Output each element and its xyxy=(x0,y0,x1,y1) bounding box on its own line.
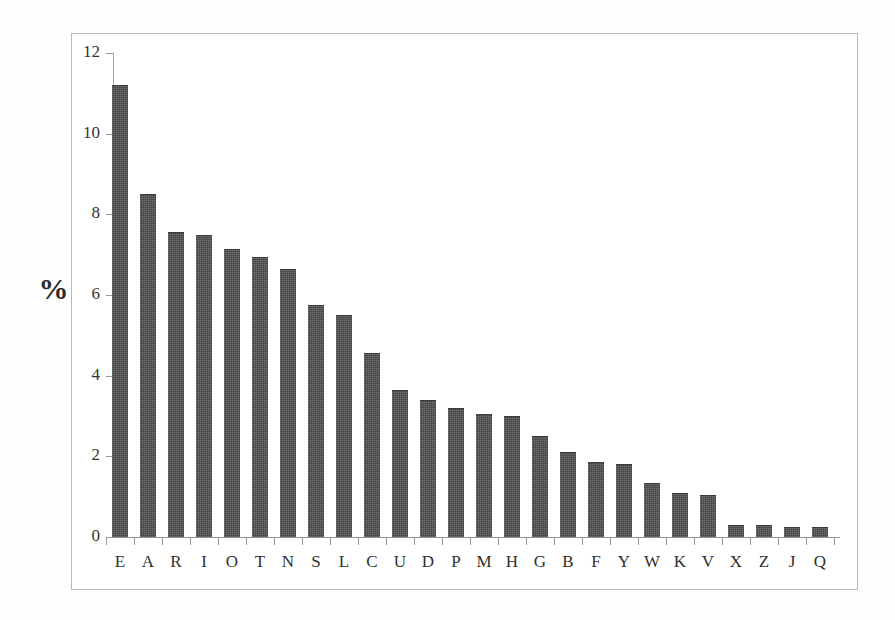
x-axis-tick xyxy=(330,538,331,545)
x-axis-category-label: R xyxy=(162,552,190,572)
x-axis-baseline xyxy=(113,537,840,538)
x-axis-category-label: T xyxy=(246,552,274,572)
bar xyxy=(784,527,800,537)
x-axis-category-label: V xyxy=(694,552,722,572)
x-axis-category-label: B xyxy=(554,552,582,572)
x-axis-category-label: N xyxy=(274,552,302,572)
x-axis-category-label: X xyxy=(722,552,750,572)
bar xyxy=(700,495,716,537)
bar xyxy=(308,305,324,537)
bar xyxy=(196,235,212,538)
x-axis-category-label: W xyxy=(638,552,666,572)
x-axis-tick xyxy=(526,538,527,545)
bar xyxy=(224,249,240,537)
x-axis-category-label: L xyxy=(330,552,358,572)
x-axis-category-label: G xyxy=(526,552,554,572)
x-axis-tick xyxy=(414,538,415,545)
bar xyxy=(140,194,156,537)
x-axis-tick xyxy=(778,538,779,545)
x-axis-category-label: O xyxy=(218,552,246,572)
x-axis-category-label: J xyxy=(778,552,806,572)
x-axis-category-label: U xyxy=(386,552,414,572)
x-axis-category-label: H xyxy=(498,552,526,572)
bar xyxy=(448,408,464,537)
plot-frame xyxy=(71,33,858,590)
x-axis-tick xyxy=(162,538,163,545)
x-axis-category-label: S xyxy=(302,552,330,572)
x-axis-category-label: C xyxy=(358,552,386,572)
x-axis-tick xyxy=(666,538,667,545)
x-axis-tick xyxy=(610,538,611,545)
y-axis-title: % xyxy=(30,274,76,304)
x-axis-tick xyxy=(554,538,555,545)
bar xyxy=(756,525,772,537)
x-axis-category-label: D xyxy=(414,552,442,572)
x-axis-tick xyxy=(498,538,499,545)
bar xyxy=(644,483,660,537)
x-axis-category-label: M xyxy=(470,552,498,572)
bar xyxy=(560,452,576,537)
x-axis-category-label: I xyxy=(190,552,218,572)
x-axis-tick xyxy=(470,538,471,545)
x-axis-category-label: E xyxy=(106,552,134,572)
x-axis-tick xyxy=(358,538,359,545)
x-axis-tick xyxy=(750,538,751,545)
letter-frequency-chart-figure: % 024681012 EARIOTNSLCUDPMHGBFYWKVXZJQ xyxy=(0,0,895,620)
x-axis-tick xyxy=(134,538,135,545)
x-axis-tick xyxy=(722,538,723,545)
bar xyxy=(476,414,492,537)
bar xyxy=(672,493,688,537)
bar xyxy=(364,353,380,537)
x-axis-category-label: P xyxy=(442,552,470,572)
bar xyxy=(392,390,408,537)
x-axis-category-label: F xyxy=(582,552,610,572)
bar xyxy=(504,416,520,537)
x-axis-tick xyxy=(806,538,807,545)
bar xyxy=(588,462,604,537)
x-axis-tick xyxy=(638,538,639,545)
x-axis-tick xyxy=(694,538,695,545)
x-axis-category-label: A xyxy=(134,552,162,572)
x-axis-tick xyxy=(302,538,303,545)
bar xyxy=(812,527,828,537)
x-axis-tick xyxy=(218,538,219,545)
x-axis-tick xyxy=(386,538,387,545)
x-axis-category-label: Z xyxy=(750,552,778,572)
x-axis-category-label: Y xyxy=(610,552,638,572)
x-axis-tick xyxy=(246,538,247,545)
bar xyxy=(280,269,296,537)
x-axis-tick xyxy=(274,538,275,545)
bar xyxy=(112,85,128,537)
x-axis-tick xyxy=(582,538,583,545)
x-axis-tick xyxy=(834,538,835,545)
y-axis-tick xyxy=(106,537,114,538)
bar xyxy=(532,436,548,537)
bar xyxy=(252,257,268,537)
x-axis-tick xyxy=(442,538,443,545)
x-axis-category-label: K xyxy=(666,552,694,572)
x-axis-category-label: Q xyxy=(806,552,834,572)
x-axis-tick xyxy=(106,538,107,545)
y-axis-tick xyxy=(106,53,114,54)
bar xyxy=(420,400,436,537)
x-axis-tick xyxy=(190,538,191,545)
bar xyxy=(728,525,744,537)
bar xyxy=(168,232,184,537)
bar xyxy=(336,315,352,537)
bar xyxy=(616,464,632,537)
